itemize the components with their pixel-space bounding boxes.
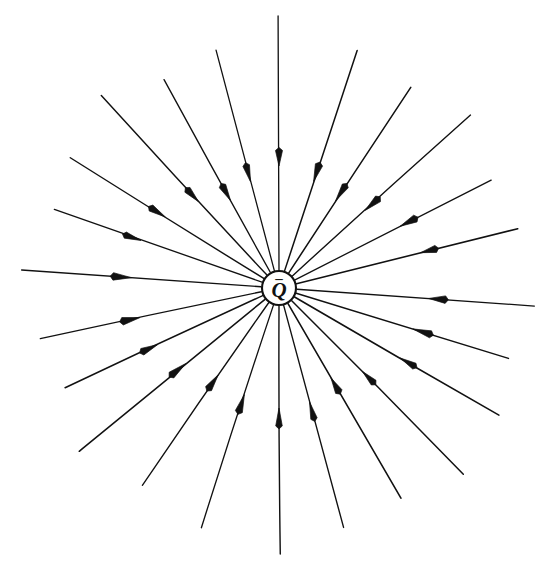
field-arrowhead [331,378,342,394]
field-arrowhead [413,329,433,338]
field-line [40,292,261,339]
field-arrowhead [429,296,449,304]
field-diagram: – Q [0,0,560,568]
field-line [289,87,411,273]
field-arrowhead [400,215,418,226]
field-arrowhead [235,395,244,415]
field-arrowhead [185,187,199,201]
field-line [216,50,274,270]
field-line [65,296,263,388]
field-arrowhead [400,358,417,369]
field-arrowhead [336,183,349,200]
field-line [22,270,261,287]
field-arrowhead [120,318,140,325]
field-line-canvas: – Q [0,0,560,568]
field-arrowhead [123,232,141,240]
field-line [70,158,263,279]
field-arrowhead [140,345,158,355]
field-arrowhead [148,205,165,217]
field-line [295,180,491,280]
field-arrowhead [314,162,323,181]
field-arrowhead [421,245,439,252]
field-line [285,51,358,271]
charge-symbol-label: Q [271,278,286,302]
field-line [101,95,266,274]
field-line [54,209,262,282]
field-arrowhead [219,183,230,200]
field-arrowhead [243,163,251,182]
field-line [292,301,464,474]
field-line [295,297,499,415]
field-arrowhead [110,273,131,280]
field-line [292,115,470,276]
field-line [164,80,270,273]
field-arrowhead [310,402,318,421]
field-line [288,304,401,499]
field-line [297,289,534,306]
field-arrowhead [169,364,186,378]
field-line [278,16,279,270]
field-arrowhead [362,371,376,385]
field-arrowhead [275,147,282,166]
field-arrowhead [276,408,283,429]
field-line [296,293,508,358]
field-line [201,305,273,528]
field-arrowhead [206,375,219,391]
field-line [279,306,280,554]
field-line [142,303,268,486]
field-arrowhead [365,196,380,210]
field-line [296,229,517,284]
